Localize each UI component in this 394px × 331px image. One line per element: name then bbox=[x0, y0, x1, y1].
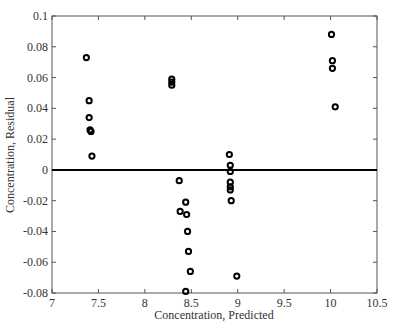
y-tick-label: -0.08 bbox=[23, 286, 48, 300]
y-tick-label: -0.04 bbox=[23, 224, 48, 238]
plot-border bbox=[52, 16, 377, 293]
data-points bbox=[84, 32, 338, 294]
x-tick-label: 10 bbox=[325, 296, 337, 310]
data-point bbox=[87, 98, 92, 103]
x-axis-title: Concentration, Predicted bbox=[154, 308, 273, 322]
data-point bbox=[184, 212, 189, 217]
data-point bbox=[186, 249, 191, 254]
data-point bbox=[177, 178, 182, 183]
x-tick-label: 7 bbox=[49, 296, 55, 310]
y-tick-label: 0.02 bbox=[27, 132, 48, 146]
data-point bbox=[329, 32, 334, 37]
data-point bbox=[228, 163, 233, 168]
data-point bbox=[87, 115, 92, 120]
x-tick-label: 10.5 bbox=[367, 296, 388, 310]
y-axis: -0.08-0.06-0.04-0.0200.020.040.060.080.1 bbox=[23, 9, 377, 300]
data-point bbox=[227, 152, 232, 157]
data-point bbox=[188, 269, 193, 274]
data-point bbox=[183, 289, 188, 294]
y-tick-label: -0.06 bbox=[23, 255, 48, 269]
data-point bbox=[89, 153, 94, 158]
x-tick-label: 7.5 bbox=[91, 296, 106, 310]
y-tick-label: 0.04 bbox=[27, 101, 48, 115]
data-point bbox=[330, 66, 335, 71]
y-tick-label: -0.02 bbox=[23, 194, 48, 208]
residual-scatter-chart: 77.588.599.51010.5 -0.08-0.06-0.04-0.020… bbox=[0, 0, 394, 331]
data-point bbox=[185, 229, 190, 234]
data-point bbox=[333, 104, 338, 109]
data-point bbox=[178, 209, 183, 214]
data-point bbox=[330, 58, 335, 63]
y-tick-label: 0.08 bbox=[27, 40, 48, 54]
y-axis-title: Concentration, Residual bbox=[3, 96, 17, 213]
data-point bbox=[228, 169, 233, 174]
plot-frame bbox=[52, 16, 377, 293]
data-point bbox=[234, 273, 239, 278]
x-axis: 77.588.599.51010.5 bbox=[49, 16, 388, 310]
x-tick-label: 8 bbox=[142, 296, 148, 310]
y-tick-label: 0.1 bbox=[33, 9, 48, 23]
data-point bbox=[229, 198, 234, 203]
data-point bbox=[183, 200, 188, 205]
data-point bbox=[84, 55, 89, 60]
y-tick-label: 0.06 bbox=[27, 71, 48, 85]
x-tick-label: 9.5 bbox=[277, 296, 292, 310]
y-tick-label: 0 bbox=[42, 163, 48, 177]
